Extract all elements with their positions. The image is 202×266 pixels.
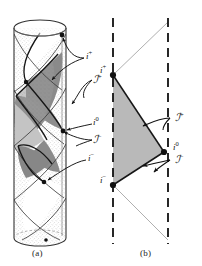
- label-scri-plus-a: ℐ+: [93, 74, 102, 85]
- label-i-zero-b: i0: [173, 143, 179, 152]
- vertex-scri-junction-a: [24, 80, 28, 84]
- vertex-i-minus-b: [110, 182, 116, 188]
- vertex-i-plus-a: [60, 33, 65, 38]
- panel-a-caption: (a): [32, 248, 43, 258]
- leader-scri-minus-a: [64, 132, 92, 140]
- panel-b-penrose: [110, 18, 170, 244]
- label-i-zero-a: i0: [93, 118, 99, 127]
- label-i-minus-b: i−: [100, 176, 106, 185]
- label-scri-minus-b: ℐ−: [175, 154, 184, 165]
- leader-scri-plus-b-tail: [163, 118, 170, 130]
- label-i-plus-a: i+: [86, 52, 92, 61]
- label-i-plus-b: i+: [100, 66, 106, 75]
- vertex-i-minus-a: [42, 180, 47, 185]
- vertex-i-plus-b: [110, 72, 116, 78]
- vertex-i-zero-b: [161, 149, 167, 155]
- leader-i-zero-a: [67, 124, 92, 130]
- conformal-diagram-figure: i+ ℐ+ i0 ℐ− i− i+ ℐ+ i0 ℐ− i− (a) (b): [0, 0, 202, 266]
- label-scri-minus-a: ℐ−: [93, 134, 102, 145]
- label-scri-plus-b: ℐ+: [175, 112, 184, 123]
- panel-b-caption: (b): [140, 248, 151, 258]
- vertex-bottom-a: [44, 238, 48, 242]
- panel-a-cylinder: [14, 20, 92, 246]
- panel-a-leader-tails: [76, 80, 92, 146]
- label-i-minus-a: i−: [88, 154, 94, 163]
